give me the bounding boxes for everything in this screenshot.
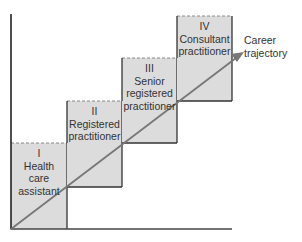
step-4-line1: Consultant: [177, 33, 232, 46]
step-3-line1: Senior: [122, 75, 177, 88]
step-2-line2: practitioner: [67, 130, 122, 143]
arrow-label-line2: trajectory: [238, 47, 302, 60]
step-3-line2: registered: [122, 87, 177, 100]
step-4-numeral: IV: [177, 20, 232, 33]
step-2-numeral: II: [67, 105, 122, 118]
step-2-line1: Registered: [67, 118, 122, 131]
step-3-numeral: III: [122, 62, 177, 75]
step-2-label: II Registered practitioner: [67, 105, 122, 143]
step-1-line3: assistant: [11, 185, 67, 198]
step-1-numeral: I: [11, 147, 67, 160]
step-1-label: I Health care assistant: [11, 147, 67, 197]
step-1-line1: Health: [11, 160, 67, 173]
step-3-line3: practitioner: [122, 100, 177, 113]
step-3-label: III Senior registered practitioner: [122, 62, 177, 112]
step-4-line2: practitioner: [177, 45, 232, 58]
arrow-label-line1: Career: [238, 34, 302, 47]
step-1-line2: care: [11, 172, 67, 185]
step-4-label: IV Consultant practitioner: [177, 20, 232, 58]
arrow-label: Career trajectory: [238, 34, 302, 59]
